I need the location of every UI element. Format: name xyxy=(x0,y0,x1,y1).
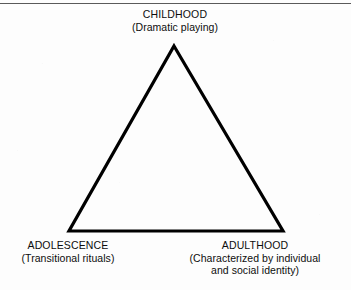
vertex-label-adolescence: ADOLESCENCE (Transitional rituals) xyxy=(22,239,115,264)
vertex-label-childhood: CHILDHOOD (Dramatic playing) xyxy=(132,8,218,33)
adolescence-subtitle-line-1: (Transitional rituals) xyxy=(22,252,115,265)
adulthood-subtitle-line-1: (Characterized by individual xyxy=(190,252,321,265)
childhood-subtitle-line-1: (Dramatic playing) xyxy=(132,21,218,34)
vertex-label-adulthood: ADULTHOOD (Characterized by individual a… xyxy=(190,239,321,277)
figure-root: CHILDHOOD (Dramatic playing) ADOLESCENCE… xyxy=(0,0,351,290)
childhood-title: CHILDHOOD xyxy=(132,8,218,21)
triangle-outline xyxy=(69,46,283,231)
adulthood-title: ADULTHOOD xyxy=(190,239,321,252)
adolescence-title: ADOLESCENCE xyxy=(22,239,115,252)
adulthood-subtitle-line-2: and social identity) xyxy=(190,264,321,277)
